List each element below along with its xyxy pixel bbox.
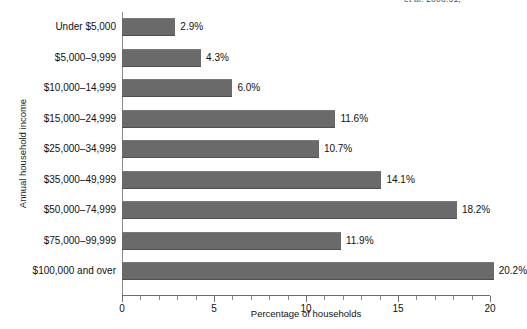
x-tick-minor <box>140 296 141 300</box>
bar <box>122 262 494 280</box>
x-tick-major <box>306 296 307 302</box>
bar <box>122 232 341 250</box>
category-label: $35,000–49,999 <box>44 171 116 189</box>
x-tick-minor <box>343 296 344 300</box>
bar <box>122 110 335 128</box>
category-label: $25,000–34,999 <box>44 140 116 158</box>
x-tick-major <box>122 296 123 302</box>
bar-value-label: 14.1% <box>386 171 414 189</box>
bar-value-label: 4.3% <box>206 49 229 67</box>
bar <box>122 140 319 158</box>
bar-value-label: 10.7% <box>324 140 352 158</box>
bar-row: $75,000–99,99911.9% <box>122 226 490 257</box>
x-tick-minor <box>159 296 160 300</box>
bar-row: $100,000 and over20.2% <box>122 256 490 287</box>
x-tick-major <box>398 296 399 302</box>
bar-value-label: 18.2% <box>462 201 490 219</box>
bar-row: $35,000–49,99914.1% <box>122 165 490 196</box>
x-tick-minor <box>232 296 233 300</box>
category-label: $75,000–99,999 <box>44 232 116 250</box>
x-tick-minor <box>380 296 381 300</box>
bar-row: $25,000–34,99910.7% <box>122 134 490 165</box>
bar-value-label: 11.6% <box>340 110 368 128</box>
bar <box>122 201 457 219</box>
bar-value-label: 2.9% <box>180 18 203 36</box>
category-label: $15,000–24,999 <box>44 110 116 128</box>
x-tick-minor <box>251 296 252 300</box>
category-label: $5,000–9,999 <box>55 49 116 67</box>
x-tick-minor <box>196 296 197 300</box>
bar-row: Under $5,0002.9% <box>122 12 490 43</box>
x-tick-minor <box>416 296 417 300</box>
bar-row: $50,000–74,99918.2% <box>122 195 490 226</box>
bar-row: $15,000–24,99911.6% <box>122 104 490 135</box>
y-axis-title: Annual household income <box>17 64 28 244</box>
category-label: $10,000–14,999 <box>44 79 116 97</box>
x-tick-major <box>490 296 491 302</box>
bar <box>122 171 381 189</box>
x-tick-minor <box>361 296 362 300</box>
x-tick-minor <box>472 296 473 300</box>
x-axis-title: Percentage of households <box>122 308 490 319</box>
x-tick-minor <box>288 296 289 300</box>
x-tick-major <box>214 296 215 302</box>
category-label: $50,000–74,999 <box>44 201 116 219</box>
bar-row: $5,000–9,9994.3% <box>122 43 490 74</box>
x-tick-minor <box>324 296 325 300</box>
bar <box>122 79 232 97</box>
x-tick-minor <box>177 296 178 300</box>
x-tick-minor <box>435 296 436 300</box>
bar-value-label: 11.9% <box>346 232 374 250</box>
bar-value-label: 6.0% <box>237 79 260 97</box>
x-tick-minor <box>453 296 454 300</box>
bar-row: $10,000–14,9996.0% <box>122 73 490 104</box>
bar-value-label: 20.2% <box>499 262 527 280</box>
plot-area: Under $5,0002.9%$5,000–9,9994.3%$10,000–… <box>122 12 490 295</box>
citation-fragment-text: et al. 2008:31, <box>404 0 461 3</box>
x-tick-minor <box>269 296 270 300</box>
category-label: $100,000 and over <box>33 262 116 280</box>
bar <box>122 18 175 36</box>
bar <box>122 49 201 67</box>
category-label: Under $5,000 <box>55 18 116 36</box>
